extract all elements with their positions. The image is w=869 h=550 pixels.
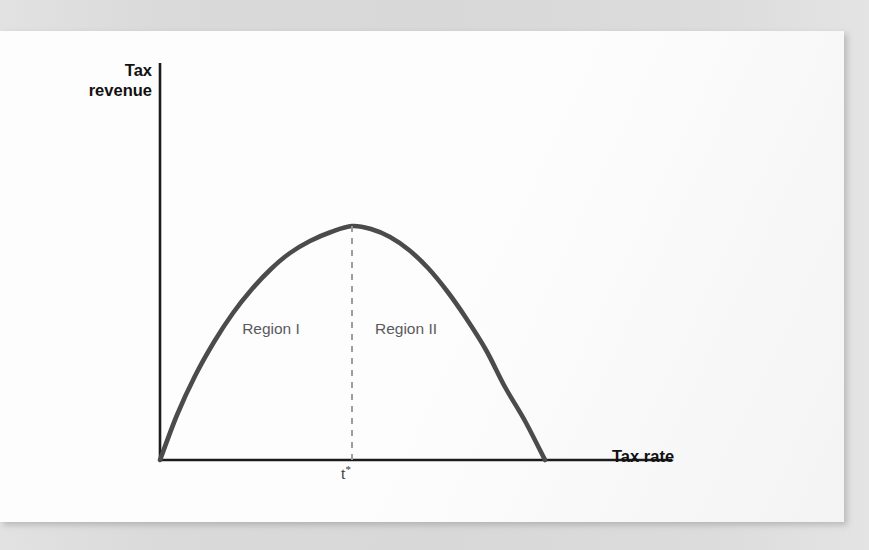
tstar-tick-label: t* — [341, 463, 351, 483]
y-axis-label-line2: revenue — [89, 81, 152, 99]
laffer-curve-path — [160, 226, 545, 460]
tstar-superscript: * — [345, 463, 351, 475]
region-2-label: Region II — [360, 320, 452, 338]
y-axis-label: Taxrevenue — [89, 60, 152, 100]
y-axis-label-line1: Tax — [125, 61, 152, 79]
x-axis-label: Tax rate — [612, 447, 674, 466]
region-1-label: Region I — [228, 320, 314, 338]
